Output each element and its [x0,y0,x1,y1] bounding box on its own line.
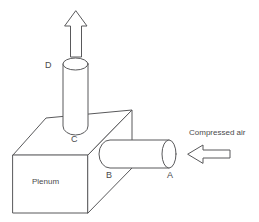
horizontal-pipe-end-ellipse [162,140,176,168]
label-point-a: A [167,171,173,180]
horizontal-pipe-body [99,140,169,168]
plenum-diagram-graphic [0,0,259,222]
vertical-cylinder-body [63,64,88,135]
label-plenum: Plenum [32,178,59,186]
diagram-canvas: D C B A Plenum Compressed air [0,0,259,222]
label-point-b: B [106,171,112,180]
outlet-arrow-up [65,11,87,57]
label-point-d: D [45,61,52,70]
label-compressed-air: Compressed air [189,129,245,137]
label-point-c: C [71,135,78,144]
inlet-arrow-left [188,145,230,163]
vertical-cylinder-top-ellipse [63,58,88,70]
